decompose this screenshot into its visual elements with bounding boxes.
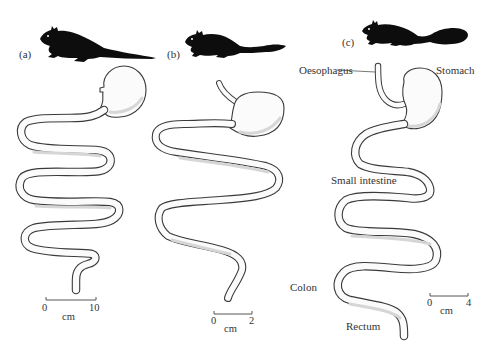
- panel-b-gut-drawing: [156, 83, 284, 298]
- scale-a-end: 10: [89, 302, 100, 314]
- figure-drawings: [0, 0, 497, 346]
- scale-b-unit: cm: [224, 323, 237, 335]
- panel-b-label: (b): [167, 48, 180, 60]
- oesophagus-label: Oesophagus: [299, 64, 353, 76]
- scale-c-unit: cm: [440, 305, 453, 317]
- panel-c-gut-drawing: [337, 66, 442, 336]
- scale-bar-a: [46, 297, 96, 300]
- animal-b-silhouette-icon: [185, 30, 286, 58]
- animal-c-silhouette-icon: [362, 20, 468, 46]
- panel-a-label: (a): [19, 48, 31, 60]
- scale-a-unit: cm: [62, 311, 75, 323]
- scale-c-start: 0: [427, 297, 432, 309]
- small-intestine-label: Small intestine: [331, 174, 397, 186]
- stomach-label: Stomach: [436, 64, 475, 76]
- digestive-tract-comparison-figure: (a) (b) (c) Oesophagus Stomach Small int…: [0, 0, 497, 346]
- panel-a-gut-drawing: [20, 66, 146, 290]
- scale-b-end: 2: [249, 315, 254, 327]
- scale-a-start: 0: [42, 302, 47, 314]
- rectum-label: Rectum: [346, 320, 380, 332]
- scale-b-start: 0: [211, 315, 216, 327]
- colon-label: Colon: [290, 281, 317, 293]
- scale-c-end: 4: [466, 297, 471, 309]
- scale-bar-c: [430, 293, 468, 296]
- animal-a-silhouette-icon: [40, 26, 156, 62]
- scale-bar-b: [214, 311, 252, 314]
- panel-c-label: (c): [342, 36, 354, 48]
